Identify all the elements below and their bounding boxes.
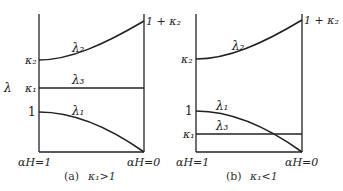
lambda3-label: λ₃ [215,119,229,133]
lambda2-curve [196,20,302,59]
eigenvalue-diagram: λ₂ λ₃ λ₁ κ₂ λ κ₁ 1 1 + κ₂ αH=1 αH=0 (a) … [0,0,343,191]
lambda1-curve [196,111,302,152]
caption-a-prefix: (a) [64,170,79,183]
x-right-label: αH=0 [285,156,318,169]
right-top-label: 1 + κ₂ [146,15,181,28]
lambda2-curve [39,21,144,60]
lambda1-curve [39,112,144,152]
x-left-label: αH=1 [18,156,51,169]
right-top-label: 1 + κ₂ [304,14,339,27]
caption-b-condition: κ₁<1 [249,170,278,183]
kappa2-tick: κ₂ [180,53,193,66]
one-tick: 1 [185,104,193,118]
panel-b: λ₂ λ₁ λ₃ κ₂ 1 κ₁ 1 + κ₂ αH=1 αH=0 (b) κ₁… [176,14,339,183]
x-left-label: αH=1 [176,156,209,169]
lambda1-label: λ₁ [215,99,228,113]
kappa2-tick: κ₂ [24,54,37,67]
x-right-label: αH=0 [127,156,160,169]
y-axis-label: λ [3,81,12,95]
lambda2-label: λ₂ [231,39,245,53]
one-tick: 1 [28,105,36,119]
lambda2-label: λ₂ [71,41,85,55]
panel-a: λ₂ λ₃ λ₁ κ₂ λ κ₁ 1 1 + κ₂ αH=1 αH=0 (a) … [3,14,181,183]
caption-b-prefix: (b) [226,170,242,183]
caption-a-condition: κ₁>1 [87,170,116,183]
kappa1-tick: κ₁ [24,82,37,95]
lambda1-label: λ₁ [71,104,84,118]
lambda3-label: λ₃ [71,73,85,87]
kappa1-tick: κ₁ [182,128,195,141]
